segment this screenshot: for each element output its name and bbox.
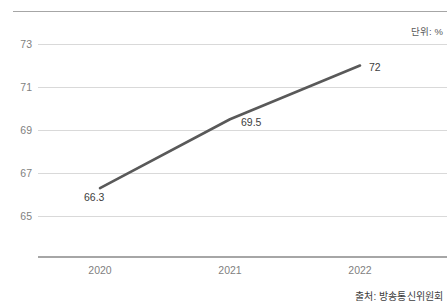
x-tick-label-2021: 2021 bbox=[218, 263, 241, 278]
y-tick-label-65: 65 bbox=[0, 211, 32, 222]
y-axis-tick-labels: 73 71 69 67 65 bbox=[0, 36, 32, 256]
top-divider-rule bbox=[13, 11, 447, 12]
x-tick-label-2020: 2020 bbox=[88, 263, 111, 278]
x-axis-tick-labels: 2020 2021 2022 bbox=[38, 263, 447, 281]
y-tick-label-69: 69 bbox=[0, 125, 32, 136]
source-note: 출처: 방송통신위원회 bbox=[355, 288, 443, 303]
y-tick-label-67: 67 bbox=[0, 168, 32, 179]
y-tick-label-71: 71 bbox=[0, 82, 32, 93]
data-value-labels: 66.3 69.5 72 bbox=[38, 36, 447, 256]
x-axis-line bbox=[38, 256, 447, 258]
chart-figure: 단위: % 73 71 69 67 65 66.3 69.5 72 2020 2… bbox=[0, 0, 447, 307]
data-label-2022: 72 bbox=[369, 62, 381, 73]
data-label-2021: 69.5 bbox=[241, 117, 261, 128]
data-label-2020: 66.3 bbox=[84, 192, 104, 203]
y-tick-label-73: 73 bbox=[0, 39, 32, 50]
x-tick-label-2022: 2022 bbox=[348, 263, 371, 278]
